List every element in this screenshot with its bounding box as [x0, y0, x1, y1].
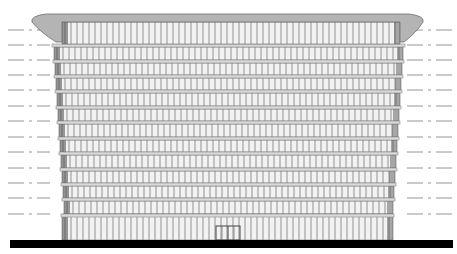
floor-slab — [53, 60, 404, 63]
edge-shade-left — [60, 140, 66, 152]
edge-shade-left — [58, 109, 64, 121]
floor — [59, 152, 398, 168]
floor-stack — [52, 44, 405, 214]
floor-slab — [57, 121, 400, 124]
floor-slab — [62, 198, 395, 201]
edge-shade-left — [61, 155, 67, 168]
floor — [62, 198, 395, 214]
edge-shade-right — [395, 78, 401, 90]
floor — [60, 168, 397, 183]
edge-shade-right — [390, 155, 396, 168]
edge-shade-left — [62, 22, 68, 44]
penthouse — [62, 22, 400, 44]
edge-shade-left — [64, 201, 70, 214]
edge-shade-right — [396, 63, 402, 75]
edge-shade-right — [388, 186, 394, 198]
edge-shade-right — [394, 93, 400, 106]
floor-slab — [52, 44, 405, 47]
edge-shade-right — [389, 171, 395, 183]
edge-shade-right — [393, 109, 399, 121]
floor — [61, 183, 396, 198]
edge-shade-right — [392, 124, 398, 137]
glazing — [62, 171, 395, 183]
edge-shade-left — [59, 124, 65, 137]
floor-slab — [55, 90, 402, 93]
floor — [56, 106, 401, 121]
floor-slab — [58, 137, 399, 140]
floor — [55, 90, 402, 106]
edge-shade-left — [56, 78, 62, 90]
glazing — [60, 140, 397, 152]
glazing — [63, 186, 394, 198]
glazing — [64, 201, 393, 214]
floor — [52, 44, 405, 60]
edge-shade-left — [62, 171, 68, 183]
ground-line — [10, 240, 453, 248]
edge-shade-right — [387, 217, 393, 240]
edge-shade-left — [57, 93, 63, 106]
edge-shade-left — [63, 186, 69, 198]
building-elevation — [0, 0, 457, 254]
glazing — [56, 78, 401, 90]
floor-slab — [61, 214, 394, 217]
floor-slab — [61, 183, 396, 186]
floor — [57, 121, 400, 137]
floor — [58, 137, 399, 152]
floor-slab — [54, 75, 403, 78]
edge-shade-right — [394, 22, 400, 44]
floor-slab — [59, 152, 398, 155]
floor — [54, 75, 403, 90]
edge-shade-right — [391, 140, 397, 152]
glazing — [57, 93, 400, 106]
ground-bar — [10, 240, 453, 248]
floor — [53, 60, 404, 75]
edge-shade-right — [397, 47, 403, 60]
edge-shade-left — [54, 47, 60, 60]
edge-shade-right — [387, 201, 393, 214]
edge-shade-left — [62, 217, 68, 240]
edge-shade-left — [55, 63, 61, 75]
floor-slab — [56, 106, 401, 109]
floor-slab — [60, 168, 397, 171]
glazing — [55, 63, 402, 75]
